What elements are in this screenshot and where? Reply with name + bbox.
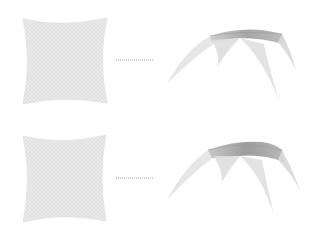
figure-row-2 — [0, 118, 322, 236]
flat-membrane-pattern — [23, 135, 106, 222]
flat-membrane-pattern — [23, 18, 107, 104]
row-1-graphic — [0, 0, 322, 118]
form-found-shell — [167, 30, 296, 100]
row-2-graphic — [0, 118, 322, 236]
figure-row-1 — [0, 0, 322, 118]
form-found-shell — [167, 142, 300, 216]
